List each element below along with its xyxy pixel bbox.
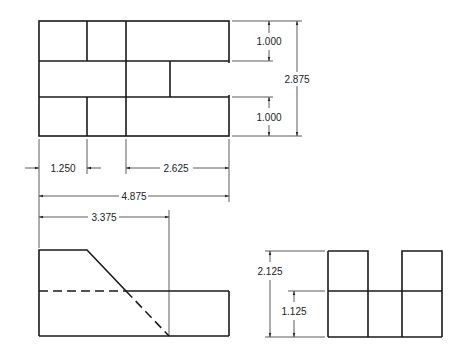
dim-left-width: 1.250 (50, 163, 75, 174)
dim-overall-width: 4.875 (121, 191, 146, 202)
top-view-vertical-dimensions: 1.000 1.000 2.875 (232, 21, 310, 136)
dim-bottom-slot: 1.000 (256, 112, 281, 123)
technical-drawing: 1.000 1.000 2.875 1.250 2.625 4.875 3.37… (0, 0, 464, 353)
front-view (39, 250, 229, 336)
top-view-horizontal-dimensions: 1.250 2.625 4.875 (25, 139, 229, 248)
side-view-dimensions: 2.125 1.125 (257, 251, 325, 337)
dim-top-slot: 1.000 (256, 36, 281, 47)
dim-side-lower: 1.125 (281, 306, 306, 317)
dim-side-overall: 2.125 (257, 266, 282, 277)
dim-ramp-end: 3.375 (91, 212, 116, 223)
dim-overall-depth: 2.875 (284, 74, 309, 85)
side-view (328, 251, 442, 337)
ramp-dimension: 3.375 (39, 210, 169, 336)
top-view (39, 21, 229, 136)
dim-right-width: 2.625 (163, 163, 188, 174)
